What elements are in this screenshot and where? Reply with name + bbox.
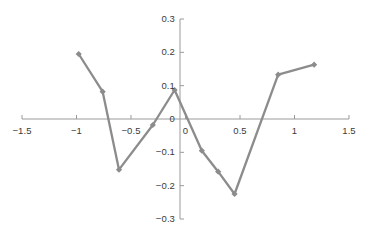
x-tick-label-0: −1.5 — [12, 126, 31, 136]
series-group — [76, 51, 318, 197]
x-tick-label-3: 0 — [183, 126, 188, 136]
x-tick-label-1: −1 — [71, 126, 82, 136]
axes-group — [22, 19, 349, 219]
y-tick-label-6: −0.3 — [156, 214, 175, 224]
data-point-9 — [311, 62, 317, 68]
data-point-8 — [275, 72, 281, 78]
y-tick-label-5: −0.2 — [156, 181, 175, 191]
chart-container: −1.5−1−0.500.511.5 0.30.20.10−0.1−0.2−0.… — [0, 0, 371, 234]
x-tick-label-4: 0.5 — [233, 126, 247, 136]
y-tick-label-0: 0.3 — [161, 14, 175, 24]
y-tick-label-4: −0.1 — [156, 148, 175, 158]
x-tick-label-5: 1 — [292, 126, 297, 136]
y-tick-label-2: 0.1 — [161, 81, 175, 91]
y-tick-label-3: 0 — [170, 114, 175, 124]
plot-area — [0, 0, 371, 234]
x-tick-label-6: 1.5 — [342, 126, 356, 136]
x-tick-label-2: −0.5 — [121, 126, 140, 136]
y-tick-label-1: 0.2 — [161, 48, 175, 58]
